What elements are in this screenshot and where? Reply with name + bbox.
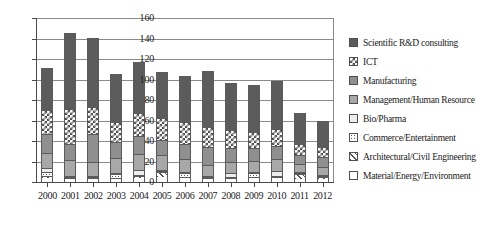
legend-item[interactable]: Scientific R&D consulting [349,33,495,52]
bar-segment [65,160,75,176]
y-axis-tick-mark [32,162,36,163]
bar-segment [111,122,121,143]
bar-segment [203,71,213,126]
bar-segment [42,178,52,182]
y-axis-tick-mark [32,100,36,101]
bar-2009[interactable] [248,85,260,182]
bar-segment [272,178,282,182]
bar-2002[interactable] [87,38,99,182]
bar-2008[interactable] [225,83,237,182]
x-axis-tick-mark [47,183,48,187]
bar-segment [249,85,259,132]
bar-segment [42,153,52,167]
x-axis-tick-mark [300,183,301,187]
bar-2005[interactable] [156,72,168,182]
bar-segment [203,127,213,148]
x-axis-tick-mark [93,183,94,187]
bar-segment [65,179,75,182]
y-axis-tick-label: 140 [124,34,154,44]
legend-label: Scientific R&D consulting [363,38,458,48]
legend-swatch-icon [349,95,358,104]
bar-2007[interactable] [202,71,214,182]
bar-segment [203,165,213,176]
legend-swatch-icon [349,133,358,142]
bar-segment [295,144,305,155]
legend-label: Architectural/Civil Engineering [363,152,476,162]
bar-segment [249,132,259,148]
bar-segment [180,178,190,182]
bar-2010[interactable] [271,81,283,182]
legend-swatch-icon [349,76,358,85]
x-axis-tick-label: 2012 [308,190,338,201]
bar-segment [88,107,98,134]
bar-segment [226,179,236,182]
y-axis-tick-label: 160 [124,13,154,23]
legend-label: Material/Energy/Environment [363,171,471,181]
bar-segment [65,109,75,144]
x-axis-tick-mark [277,183,278,187]
x-axis-labels: 2000200120022003200420052006200720082009… [36,188,334,204]
bar-segment [111,158,121,172]
bar-segment [65,144,75,159]
y-axis-tick-mark [32,39,36,40]
bar-segment [226,130,236,148]
bar-2012[interactable] [317,121,329,182]
bar-segment [111,142,121,158]
legend-item[interactable]: ICT [349,52,495,71]
bar-segment [180,76,190,121]
legend-label: Commerce/Entertainment [363,133,456,143]
bar-segment [249,148,259,160]
bar-segment [226,83,236,130]
bar-2003[interactable] [110,74,122,182]
bar-segment [157,118,167,140]
legend-item[interactable]: Management/Human Resource [349,90,495,109]
legend-item[interactable]: Architectural/Civil Engineering [349,147,495,166]
bar-segment [318,167,328,175]
bar-segment [180,159,190,171]
x-axis-tick-mark [139,183,140,187]
bar-segment [65,33,75,109]
y-axis-tick-mark [32,121,36,122]
y-axis-tick-label: 20 [124,157,154,167]
bars-layer [36,18,334,183]
bar-2011[interactable] [294,113,306,182]
y-axis-tick-label: 100 [124,75,154,85]
bar-segment [318,157,328,166]
bar-segment [272,129,282,146]
y-axis-tick-label: 40 [124,136,154,146]
y-axis-tick-mark [32,141,36,142]
y-axis-tick-mark [32,182,36,183]
legend-item[interactable]: Commerce/Entertainment [349,128,495,147]
bar-2000[interactable] [41,68,53,182]
x-axis-tick-mark [185,183,186,187]
bar-segment [134,62,144,113]
y-axis-tick-label: 80 [124,95,154,105]
bar-segment [226,162,236,173]
x-axis-tick-mark [254,183,255,187]
legend-swatch-icon [349,152,358,161]
legend-swatch-icon [349,114,358,123]
bar-segment [295,155,305,163]
bar-segment [157,140,167,155]
y-axis-tick-mark [32,80,36,81]
legend-item[interactable]: Bio/Pharma [349,109,495,128]
legend-item[interactable]: Manufacturing [349,71,495,90]
x-axis-tick-mark [70,183,71,187]
bar-segment [88,134,98,162]
bar-segment [180,122,190,145]
bar-segment [272,81,282,129]
legend-swatch-icon [349,57,358,66]
legend-swatch-icon [349,38,358,47]
bar-segment [42,68,52,110]
bar-2001[interactable] [64,33,76,182]
bar-segment [272,146,282,159]
plot-area [36,18,334,183]
legend-label: Manufacturing [363,76,416,86]
y-axis-tick-label: 120 [124,54,154,64]
x-axis-tick-mark [208,183,209,187]
x-axis-tick-mark [323,183,324,187]
bar-segment [226,148,236,161]
legend-item[interactable]: Material/Energy/Environment [349,166,495,185]
bar-2006[interactable] [179,76,191,182]
bar-segment [157,155,167,169]
